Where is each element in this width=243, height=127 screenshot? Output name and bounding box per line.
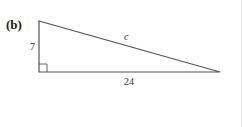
hypotenuse-label: c [124, 31, 128, 42]
right-angle-marker [39, 64, 47, 72]
vertical-leg-label: 7 [30, 41, 35, 52]
right-border [241, 0, 242, 127]
right-triangle [39, 21, 220, 72]
part-label: (b) [6, 17, 22, 33]
horizontal-leg-label: 24 [124, 76, 134, 87]
triangle-diagram [0, 0, 243, 127]
